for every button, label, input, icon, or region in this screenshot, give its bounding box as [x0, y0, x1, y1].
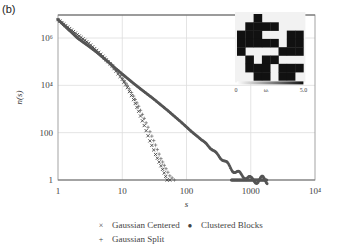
cluster-tail-point	[265, 179, 268, 182]
y-tick-label: 10⁴	[41, 80, 53, 90]
inset-cell	[295, 39, 304, 48]
dot-marker-icon: ●	[185, 221, 195, 230]
inset-cell	[287, 31, 296, 40]
x-tick-label: 100	[180, 186, 194, 196]
colorbar-label: ωᵢ	[264, 87, 269, 93]
inset-cell	[245, 39, 254, 48]
inset-cell	[279, 72, 288, 81]
inset-cell	[287, 47, 296, 56]
inset-cell	[279, 47, 288, 56]
inset-cell	[287, 72, 296, 81]
inset-cell	[295, 31, 304, 40]
inset-cell	[270, 39, 279, 48]
y-tick-label: 100	[40, 128, 54, 138]
inset-cell	[295, 47, 304, 56]
legend-item-clustered-blocks: ●Clustered Blocks	[185, 220, 263, 230]
inset-cell	[287, 39, 296, 48]
x-axis-label: s	[185, 199, 189, 209]
legend-item-gaussian-centered: ×Gaussian Centered	[96, 220, 180, 230]
x-marker-icon: ×	[96, 221, 106, 230]
log-log-scatter-plot: 110100100010⁴110010⁴10⁶sn(s)0ωᵢ5.0	[0, 0, 338, 248]
legend-label: Clustered Blocks	[201, 220, 263, 230]
inset-cell	[262, 39, 271, 48]
inset-cell	[237, 31, 246, 40]
inset-cell	[287, 64, 296, 73]
legend-item-gaussian-split: +Gaussian Split	[96, 234, 164, 244]
inset-cell	[245, 64, 254, 73]
y-tick-label: 1	[49, 175, 54, 185]
inset-cell	[254, 22, 263, 31]
inset-cell	[295, 64, 304, 73]
inset-cell	[245, 31, 254, 40]
inset-cell	[270, 22, 279, 31]
x-tick-label: 1000	[242, 186, 261, 196]
inset-cell	[262, 56, 271, 65]
y-tick-label: 10⁶	[41, 33, 53, 43]
inset-cell	[254, 31, 263, 40]
x-tick-label: 10⁴	[309, 186, 321, 196]
legend-label: Gaussian Centered	[112, 220, 180, 230]
inset-cell	[237, 39, 246, 48]
inset-cell	[254, 14, 263, 23]
inset-cell	[245, 22, 254, 31]
inset-colorbar	[237, 81, 303, 84]
colorbar-max-label: 5.0	[300, 87, 308, 93]
inset-cell	[254, 72, 263, 81]
inset-cell	[279, 64, 288, 73]
x-tick-label: 1	[56, 186, 61, 196]
inset-cell	[254, 39, 263, 48]
inset-cell	[262, 64, 271, 73]
x-tick-label: 10	[118, 186, 128, 196]
inset-cell	[237, 47, 246, 56]
inset-cell	[262, 22, 271, 31]
y-axis-label: n(s)	[14, 91, 24, 105]
inset-cell	[262, 72, 271, 81]
inset-cell	[245, 56, 254, 65]
colorbar-min-label: 0	[235, 87, 238, 93]
plus-marker-icon: +	[96, 235, 106, 244]
inset-cell	[254, 64, 263, 73]
legend-label: Gaussian Split	[112, 234, 164, 244]
inset-cell	[270, 56, 279, 65]
